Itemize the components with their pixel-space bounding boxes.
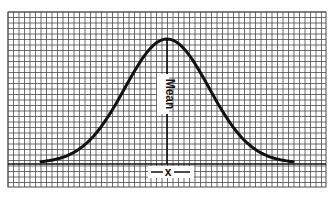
xbar-label: x xyxy=(165,165,172,179)
bell-curve-chart: Mean x xyxy=(0,0,335,199)
mean-label: Mean xyxy=(163,79,177,110)
